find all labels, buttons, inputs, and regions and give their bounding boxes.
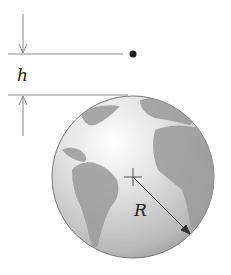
satellite-point bbox=[130, 51, 137, 58]
height-label: h bbox=[17, 65, 28, 85]
diagram-canvas bbox=[0, 0, 231, 275]
radius-label: R bbox=[134, 200, 147, 220]
